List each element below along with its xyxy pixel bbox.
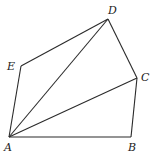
segment-ea [9, 66, 21, 137]
segment-ad [9, 19, 108, 137]
pentagon-diagram: A B C D E [0, 0, 153, 154]
segments [9, 19, 137, 137]
label-c: C [141, 71, 150, 84]
label-b: B [127, 141, 136, 154]
segment-ac [9, 78, 137, 137]
segment-de [21, 19, 108, 66]
label-d: D [107, 4, 117, 17]
segment-bc [131, 78, 137, 137]
label-e: E [6, 60, 15, 73]
segment-cd [108, 19, 137, 78]
label-a: A [3, 141, 12, 154]
vertex-labels: A B C D E [3, 4, 150, 154]
